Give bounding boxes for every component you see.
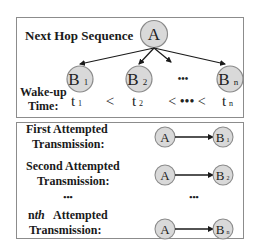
panel-title: Next Hop Sequence xyxy=(25,28,134,43)
wakeup-label-line2: Time: xyxy=(28,99,58,113)
next-hop-diagram: Next Hop Sequence A B 1 B 2 ••• B n xyxy=(0,0,255,249)
svg-text:B: B xyxy=(68,70,79,89)
target-ellipsis: ••• xyxy=(178,73,189,84)
ellipsis-left: ••• xyxy=(63,192,72,202)
source-node-a: A xyxy=(141,21,168,48)
svg-text:B: B xyxy=(218,70,229,89)
svg-text:B: B xyxy=(216,168,225,183)
target-node-b2: B 2 xyxy=(126,66,152,92)
next-hop-sequence-panel: Next Hop Sequence A B 1 B 2 ••• B n xyxy=(17,18,244,118)
target-node-bn: B n xyxy=(217,66,243,92)
svg-text:Transmission:: Transmission: xyxy=(29,223,101,237)
svg-text:Transmission:: Transmission: xyxy=(32,137,104,151)
svg-text:1: 1 xyxy=(227,137,230,143)
svg-text:2: 2 xyxy=(227,175,230,181)
less-than-ellipsis: < ••• < xyxy=(168,94,206,109)
source-node-label: A xyxy=(148,25,161,44)
attempted-transmissions-panel: First Attempted Transmission: A B 1 Seco… xyxy=(17,122,244,239)
svg-text:n: n xyxy=(227,229,230,235)
svg-text:2: 2 xyxy=(139,99,143,108)
svg-text:B: B xyxy=(216,130,225,145)
svg-text:A: A xyxy=(160,168,170,183)
svg-text:n: n xyxy=(234,77,239,87)
wakeup-label-line1: Wake-up xyxy=(20,85,67,99)
less-than-1: < xyxy=(106,93,114,109)
svg-text:B: B xyxy=(127,70,138,89)
ellipsis-right: ••• xyxy=(189,192,198,202)
svg-text:2: 2 xyxy=(143,77,148,87)
svg-text:B: B xyxy=(216,222,225,237)
svg-text:1: 1 xyxy=(84,77,89,87)
svg-text:Transmission:: Transmission: xyxy=(37,174,109,188)
svg-text:Second Attempted: Second Attempted xyxy=(26,159,120,173)
svg-text:n: n xyxy=(229,99,233,108)
svg-text:A: A xyxy=(160,130,170,145)
svg-text:First Attempted: First Attempted xyxy=(26,122,108,136)
svg-text:nth Attempted: nth Attempted xyxy=(28,208,108,222)
svg-text:A: A xyxy=(160,222,170,237)
target-node-b1: B 1 xyxy=(67,66,93,92)
svg-text:1: 1 xyxy=(78,99,82,108)
